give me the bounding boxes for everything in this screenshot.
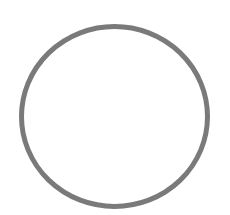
circle-outline xyxy=(22,27,208,207)
diagram-canvas xyxy=(0,0,230,215)
